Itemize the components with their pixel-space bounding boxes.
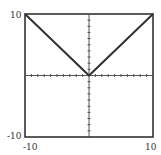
y-max-label: 10 [10, 11, 21, 20]
x-min-label: -10 [23, 143, 38, 152]
chart-plot [0, 0, 161, 155]
x-max-label: 10 [145, 143, 156, 152]
y-min-label: -10 [7, 132, 22, 141]
